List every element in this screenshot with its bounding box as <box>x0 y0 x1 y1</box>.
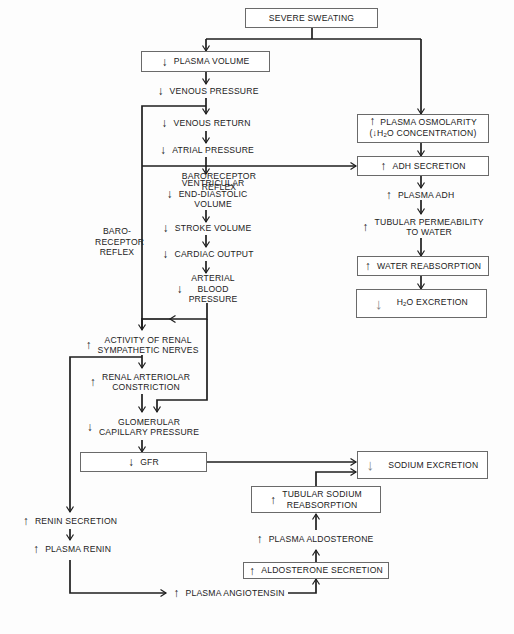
node-label: ALDOSTERONE SECRETION <box>261 565 383 576</box>
node-plasma-adh: ↑ PLASMA ADH <box>380 188 460 202</box>
node-label-line: GLOMERULAR <box>118 417 180 427</box>
node-label-line: ARTERIAL <box>191 273 234 283</box>
baroreceptor-reflex-label-horizontal: BARORECEPTOR REFLEX <box>163 171 275 192</box>
node-label-line: PRESSURE <box>189 294 238 304</box>
up-arrow-icon: ↑ <box>173 588 179 598</box>
down-arrow-icon: ↓ <box>176 284 182 294</box>
node-label: STROKE VOLUME <box>175 223 252 234</box>
node-label: PLASMA ALDOSTERONE <box>269 534 374 545</box>
node-label-line: PLASMA OSMOLARITY <box>380 117 477 127</box>
node-severe-sweating: SEVERE SWEATING <box>245 8 378 28</box>
node-label: H2O EXCRETION <box>397 297 468 310</box>
node-gfr: ↓ GFR <box>80 452 207 472</box>
node-sodium-excretion: ↓ SODIUM EXCRETION <box>357 451 488 479</box>
node-venous-return: ↓ VENOUS RETURN <box>156 116 256 130</box>
node-label: ATRIAL PRESSURE <box>172 145 254 156</box>
node-h2o-excretion: ↓ H2O EXCRETION <box>356 289 487 318</box>
diagram-canvas: SEVERE SWEATING ↓ PLASMA VOLUME ↓ VENOUS… <box>0 0 514 634</box>
label-line: BARO- <box>103 226 131 236</box>
node-label-line: TUBULAR PERMEABILITY <box>375 217 484 227</box>
label-line: REFLEX <box>202 182 237 192</box>
up-arrow-icon: ↑ <box>386 190 392 200</box>
node-label: PLASMA ANGIOTENSIN <box>186 588 285 599</box>
node-adh-secretion: ↑ ADH SECRETION <box>357 156 489 176</box>
node-plasma-angiotensin: ↑ PLASMA ANGIOTENSIN <box>168 586 290 600</box>
node-label-line: BLOOD <box>198 284 229 294</box>
node-label-line: SYMPATHETIC NERVES <box>98 345 199 355</box>
up-arrow-icon: ↑ <box>90 377 96 387</box>
node-tubular-sodium-reabsorption: ↑ TUBULAR SODIUM REABSORPTION <box>251 486 381 513</box>
down-arrow-icon: ↓ <box>162 57 168 67</box>
up-arrow-icon: ↑ <box>369 114 375 128</box>
up-arrow-icon: ↑ <box>365 261 371 271</box>
up-arrow-icon: ↑ <box>380 161 386 171</box>
node-plasma-aldosterone: ↑ PLASMA ALDOSTERONE <box>253 532 377 546</box>
node-renal-arteriolar-constriction: ↑ RENAL ARTERIOLAR CONSTRICTION <box>88 370 192 394</box>
up-arrow-icon: ↑ <box>256 534 262 544</box>
node-label: RENIN SECRETION <box>35 516 117 527</box>
label-line: BARORECEPTOR <box>182 171 256 181</box>
node-label: VENOUS PRESSURE <box>170 86 259 97</box>
down-arrow-icon: ↓ <box>163 223 169 233</box>
node-label: SEVERE SWEATING <box>269 13 354 24</box>
node-label: GFR <box>140 457 159 468</box>
node-atrial-pressure: ↓ ATRIAL PRESSURE <box>155 143 259 157</box>
down-arrow-icon: ↓ <box>128 457 134 467</box>
node-water-reabsorption: ↑ WATER REABSORPTION <box>357 256 489 276</box>
node-label-line: CONSTRICTION <box>112 382 180 392</box>
node-label-line: (↓H2O CONCENTRATION) <box>370 128 477 138</box>
node-plasma-volume: ↓ PLASMA VOLUME <box>141 51 270 72</box>
down-arrow-icon: ↓ <box>161 118 167 128</box>
node-label-line: ACTIVITY OF RENAL <box>104 335 191 345</box>
baroreceptor-reflex-label-vertical: BARO- RECEPTOR REFLEX <box>95 226 139 258</box>
label-line: RECEPTOR <box>95 237 144 247</box>
node-label: WATER REABSORPTION <box>377 261 481 272</box>
node-label: CARDIAC OUTPUT <box>175 249 254 260</box>
node-label-line: REABSORPTION <box>287 500 358 510</box>
node-cardiac-output: ↓ CARDIAC OUTPUT <box>158 247 258 261</box>
up-arrow-icon: ↑ <box>33 544 39 554</box>
node-arterial-bp: ↓ ARTERIAL BLOOD PRESSURE <box>175 273 239 305</box>
node-glomerular-capillary-pressure: ↓ GLOMERULAR CAPILLARY PRESSURE <box>82 415 204 439</box>
node-label: PLASMA VOLUME <box>174 56 250 67</box>
up-arrow-icon: ↑ <box>270 495 276 505</box>
node-renin-secretion: ↑ RENIN SECRETION <box>20 514 120 528</box>
node-label: PLASMA RENIN <box>45 544 111 555</box>
up-arrow-icon: ↑ <box>249 566 255 576</box>
node-renal-sympathetic-activity: ↑ ACTIVITY OF RENAL SYMPATHETIC NERVES <box>82 333 202 357</box>
node-label-line: CAPILLARY PRESSURE <box>99 427 199 437</box>
down-arrow-icon: ↓ <box>87 422 93 432</box>
down-arrow-icon: ↓ <box>375 299 383 309</box>
node-label-line: TO WATER <box>406 227 452 237</box>
down-arrow-icon: ↓ <box>157 86 163 96</box>
node-label: PLASMA ADH <box>398 190 454 201</box>
down-arrow-icon: ↓ <box>160 145 166 155</box>
node-aldosterone-secretion: ↑ ALDOSTERONE SECRETION <box>243 562 389 579</box>
node-label: SODIUM EXCRETION <box>388 460 478 471</box>
node-venous-pressure: ↓ VENOUS PRESSURE <box>148 84 268 98</box>
label-line: REFLEX <box>100 247 135 257</box>
node-plasma-renin: ↑ PLASMA RENIN <box>28 542 116 556</box>
down-arrow-icon: ↓ <box>367 460 375 470</box>
node-stroke-volume: ↓ STROKE VOLUME <box>159 221 255 235</box>
up-arrow-icon: ↑ <box>85 340 91 350</box>
node-label: VENOUS RETURN <box>174 118 251 129</box>
node-label-line: TUBULAR SODIUM <box>282 489 362 499</box>
node-label-line: VOLUME <box>194 199 232 209</box>
node-tubular-permeability: ↑ TUBULAR PERMEABILITY TO WATER <box>355 215 491 239</box>
node-label-line: RENAL ARTERIOLAR <box>102 372 190 382</box>
node-label: ADH SECRETION <box>392 161 465 172</box>
up-arrow-icon: ↑ <box>362 222 368 232</box>
down-arrow-icon: ↓ <box>162 249 168 259</box>
up-arrow-icon: ↑ <box>23 516 29 526</box>
node-plasma-osmolarity: ↑PLASMA OSMOLARITY (↓H2O CONCENTRATION) <box>357 114 489 143</box>
